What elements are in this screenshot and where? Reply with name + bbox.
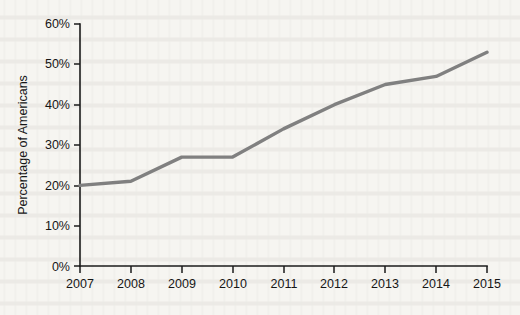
line-chart-figure: 60% 50% 40% 30% 20% 10% 0% (0, 0, 520, 315)
x-tick-label: 2009 (168, 277, 196, 291)
x-tick-label: 2012 (320, 277, 348, 291)
y-axis-tick-labels: 60% 50% 40% 30% 20% 10% 0% (45, 17, 70, 274)
y-tick-label: 10% (45, 219, 70, 233)
y-tick-label: 30% (45, 138, 70, 152)
x-tick-label: 2011 (271, 277, 298, 291)
x-axis-tick-labels: 2007 2008 2009 2010 2011 2012 2013 2014 … (66, 277, 501, 291)
y-tick-label: 40% (45, 98, 70, 112)
x-tick-label: 2007 (66, 277, 94, 291)
x-tick-label: 2015 (473, 277, 501, 291)
x-tick-label: 2008 (117, 277, 145, 291)
data-series-line (80, 52, 487, 185)
y-tick-label: 20% (45, 179, 70, 193)
y-tick-label: 50% (45, 57, 70, 71)
x-axis-tick-marks (80, 266, 487, 273)
chart-canvas: 60% 50% 40% 30% 20% 10% 0% (0, 0, 520, 315)
y-axis-title: Percentage of Americans (16, 75, 30, 215)
x-tick-label: 2010 (219, 277, 247, 291)
y-axis-tick-marks (74, 24, 80, 266)
x-tick-label: 2014 (422, 277, 450, 291)
y-tick-label: 0% (52, 260, 70, 274)
x-tick-label: 2013 (371, 277, 399, 291)
y-tick-label: 60% (45, 17, 70, 31)
